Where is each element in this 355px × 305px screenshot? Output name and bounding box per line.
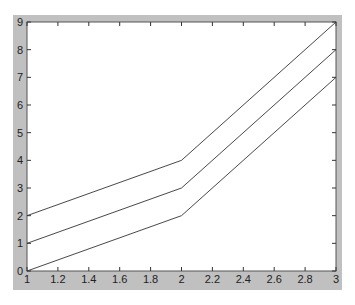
y-tick-label: 3 — [17, 182, 23, 194]
x-tick-label: 1.2 — [50, 273, 65, 285]
y-tick-label: 5 — [17, 127, 23, 139]
x-tick-label: 1.4 — [81, 273, 96, 285]
line-chart: 11.21.41.61.822.22.42.62.830123456789 — [0, 0, 355, 305]
y-tick-label: 4 — [17, 154, 23, 166]
y-tick-label: 2 — [17, 210, 23, 222]
x-tick-label: 1.8 — [143, 273, 158, 285]
x-tick-label: 2.8 — [297, 273, 312, 285]
plot-area — [27, 22, 336, 271]
x-tick-label: 1 — [24, 273, 30, 285]
x-tick-label: 2.6 — [267, 273, 282, 285]
y-tick-label: 7 — [17, 71, 23, 83]
x-tick-label: 1.6 — [112, 273, 127, 285]
y-tick-label: 1 — [17, 237, 23, 249]
x-tick-label: 3 — [333, 273, 339, 285]
x-tick-label: 2.2 — [205, 273, 220, 285]
y-tick-label: 9 — [17, 16, 23, 28]
y-tick-label: 6 — [17, 99, 23, 111]
x-tick-label: 2 — [178, 273, 184, 285]
y-tick-label: 8 — [17, 44, 23, 56]
y-tick-label: 0 — [17, 265, 23, 277]
x-tick-label: 2.4 — [236, 273, 251, 285]
